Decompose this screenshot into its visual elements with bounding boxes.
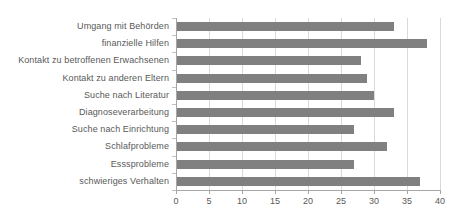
bar-row [176, 156, 440, 173]
bar-row [176, 35, 440, 52]
value-axis-line [176, 18, 177, 190]
bar-row [176, 121, 440, 138]
category-label: Suche nach Literatur [84, 90, 174, 101]
bar-row [176, 18, 440, 35]
category-label: Schlafprobleme [105, 141, 174, 152]
bar [176, 160, 354, 169]
category-axis-labels: Umgang mit Behördenfinanzielle HilfenKon… [0, 18, 174, 190]
gridline [440, 18, 441, 190]
value-axis-tick-label: 15 [270, 196, 280, 206]
bar-row [176, 173, 440, 190]
value-tick [440, 190, 441, 194]
bar [176, 39, 427, 48]
value-tick [209, 190, 210, 194]
bar [176, 125, 354, 134]
value-axis-tick-label: 25 [336, 196, 346, 206]
bar-row [176, 104, 440, 121]
category-label: Kontakt zu betroffenen Erwachsenen [18, 55, 174, 66]
value-tick [275, 190, 276, 194]
value-axis-tick-label: 20 [303, 196, 313, 206]
category-label: Esssprobleme [111, 159, 174, 170]
value-axis-tick-label: 5 [206, 196, 211, 206]
category-label: Suche nach Einrichtung [72, 124, 174, 135]
value-tick [374, 190, 375, 194]
category-label: Kontakt zu anderen Eltern [62, 73, 174, 84]
bar [176, 56, 361, 65]
plot-area [176, 18, 440, 190]
bar-chart: Umgang mit Behördenfinanzielle HilfenKon… [0, 0, 451, 222]
category-label: Diagnoseverarbeitung [79, 107, 174, 118]
value-axis-tick-label: 30 [369, 196, 379, 206]
bar-row [176, 87, 440, 104]
bar [176, 142, 387, 151]
value-axis-tick-label: 10 [237, 196, 247, 206]
value-tick [341, 190, 342, 194]
value-tick [176, 190, 177, 194]
value-tick [242, 190, 243, 194]
bars-layer [176, 18, 440, 190]
value-axis-labels: 0510152025303540 [0, 196, 451, 210]
value-tick [308, 190, 309, 194]
bar [176, 177, 420, 186]
bar-row [176, 138, 440, 155]
value-axis-tick-label: 40 [435, 196, 445, 206]
value-axis-tick-label: 0 [173, 196, 178, 206]
bar-row [176, 70, 440, 87]
bar [176, 91, 374, 100]
bar [176, 22, 394, 31]
category-label: finanzielle Hilfen [102, 38, 174, 49]
category-label: Umgang mit Behörden [77, 21, 174, 32]
bar [176, 74, 367, 83]
bar-row [176, 52, 440, 69]
bar [176, 108, 394, 117]
value-axis-tick-label: 35 [402, 196, 412, 206]
value-tick [407, 190, 408, 194]
category-label: schwieriges Verhalten [79, 176, 174, 187]
